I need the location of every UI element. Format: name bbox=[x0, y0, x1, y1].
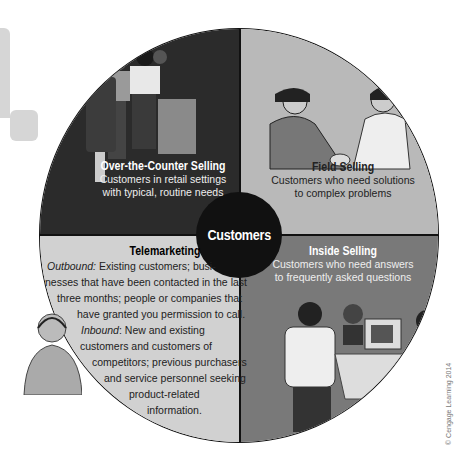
field-selling-title: Field Selling bbox=[268, 160, 418, 174]
telemarketing-line-1: Outbound: Existing customers; busi- bbox=[47, 260, 216, 272]
telemarketing-line-10: information. bbox=[147, 404, 202, 416]
telemarketing-title: Telemarketing bbox=[99, 244, 231, 258]
over-the-counter-desc-2: with typical, routine needs bbox=[88, 186, 238, 199]
inside-selling-title: Inside Selling bbox=[268, 244, 418, 258]
decorative-bar bbox=[0, 28, 10, 118]
telemarketing-title-wrap: Telemarketing bbox=[90, 244, 240, 258]
telemarketing-line-7: competitors; previous purchasers bbox=[92, 356, 247, 368]
telemarketing-line-9: product-related bbox=[129, 388, 200, 400]
copyright-notice: © Cengage Learning 2014 bbox=[445, 363, 452, 445]
over-the-counter-desc-1: Customers in retail settings bbox=[88, 173, 238, 186]
field-selling-desc-1: Customers who need solutions bbox=[258, 174, 428, 187]
over-the-counter-title: Over-the-Counter Selling bbox=[97, 159, 229, 173]
field-selling-desc-2: to complex problems bbox=[258, 187, 428, 200]
center-label: Customers bbox=[207, 227, 270, 243]
telemarketing-line-3: three months; people or companies that bbox=[57, 292, 242, 304]
inside-selling-text: Inside Selling Customers who need answer… bbox=[258, 244, 428, 284]
telemarketing-line-4: have granted you permission to call. bbox=[77, 308, 245, 320]
over-the-counter-text: Over-the-Counter Selling Customers in re… bbox=[88, 159, 238, 199]
telemarketing-line-6: customers and customers of bbox=[80, 340, 212, 352]
inside-selling-desc-1: Customers who need answers bbox=[258, 258, 428, 271]
telemarketing-line-2: nesses that have been contacted in the l… bbox=[45, 276, 247, 288]
telemarketing-line-5: Inbound: New and existing bbox=[81, 324, 205, 336]
telemarketing-line-8: and service personnel seeking bbox=[104, 372, 246, 384]
office-computer-illustration bbox=[265, 299, 439, 439]
field-selling-text: Field Selling Customers who need solutio… bbox=[258, 160, 428, 200]
inside-selling-desc-2: to frequently asked questions bbox=[258, 271, 428, 284]
decorative-square bbox=[10, 110, 38, 141]
telemarketer-headset-illustration bbox=[22, 310, 82, 395]
